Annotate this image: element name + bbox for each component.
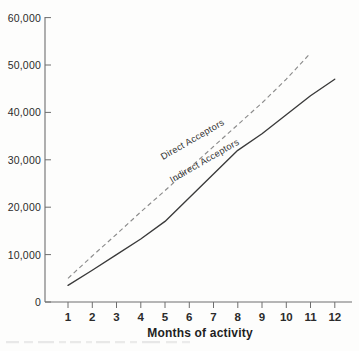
x-tick-label-1: 1 (65, 311, 72, 323)
x-tick-label-6: 6 (186, 311, 192, 323)
x-axis-title: Months of activity (147, 326, 253, 340)
y-tick-label-60000: 60,000 (8, 12, 41, 24)
line-chart-canvas: 0 10,000 20,000 30,000 40,000 50,000 60,… (0, 0, 359, 351)
y-tick-label-0: 0 (35, 296, 41, 308)
x-tick-label-12: 12 (328, 311, 341, 323)
y-tick-label-40000: 40,000 (8, 106, 41, 118)
x-tick-label-8: 8 (235, 311, 242, 323)
x-tick-label-11: 11 (304, 311, 317, 323)
x-tick-label-3: 3 (113, 311, 119, 323)
y-tick-label-50000: 50,000 (8, 59, 41, 71)
chart-figure: 0 10,000 20,000 30,000 40,000 50,000 60,… (0, 0, 359, 351)
x-tick-label-2: 2 (89, 311, 95, 323)
x-tick-label-4: 4 (138, 311, 145, 323)
y-tick-label-10000: 10,000 (8, 249, 41, 261)
y-tick-label-20000: 20,000 (8, 201, 41, 213)
x-tick-label-9: 9 (259, 311, 265, 323)
x-tick-label-10: 10 (280, 311, 293, 323)
x-tick-label-5: 5 (162, 311, 169, 323)
x-tick-label-7: 7 (210, 311, 216, 323)
y-tick-label-30000: 30,000 (8, 154, 41, 166)
